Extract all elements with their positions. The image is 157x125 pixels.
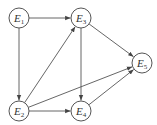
- edge-e2-e3: [25, 27, 76, 103]
- node-e4: E4: [71, 101, 91, 121]
- node-e2: E2: [9, 101, 29, 121]
- edge-e3-e5: [89, 24, 134, 57]
- node-e3: E3: [71, 8, 91, 28]
- node-e5: E5: [132, 53, 152, 73]
- edges: [19, 18, 134, 111]
- nodes: E1E3E5E2E4: [9, 8, 152, 121]
- directed-graph: E1E3E5E2E4: [0, 0, 157, 125]
- node-e1: E1: [9, 8, 29, 28]
